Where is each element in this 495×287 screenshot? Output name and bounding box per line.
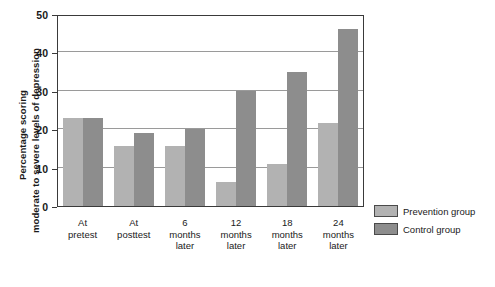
bar-group — [216, 16, 256, 206]
y-tick-label-50: 50 — [36, 10, 48, 21]
gridline-20 — [58, 128, 363, 129]
x-tick-label-line: 24 — [306, 217, 370, 229]
chart-legend: Prevention groupControl group — [374, 203, 475, 239]
bar — [63, 118, 83, 206]
bar — [165, 146, 185, 206]
gridline-30 — [58, 90, 363, 91]
bar — [185, 129, 205, 206]
legend-label: Prevention group — [403, 206, 475, 217]
gridline-40 — [58, 51, 363, 52]
y-tick-label-10: 10 — [36, 164, 48, 175]
y-tick-label-20: 20 — [36, 125, 48, 136]
gridline-10 — [58, 167, 363, 168]
bar — [134, 133, 154, 206]
y-axis-title-line-2: moderate to severe levels of depression — [30, 48, 41, 233]
x-tick-label: 24monthslater — [306, 217, 370, 252]
y-axis-title-line-1: Percentage scoring — [17, 90, 28, 180]
bar — [267, 164, 287, 206]
bar-group — [318, 16, 358, 206]
bar — [83, 118, 103, 206]
bar-group — [267, 16, 307, 206]
plot-area — [57, 15, 364, 207]
y-tick-0 — [52, 207, 57, 208]
y-tick-label-40: 40 — [36, 48, 48, 59]
y-tick-label-30: 30 — [36, 87, 48, 98]
legend-item[interactable]: Control group — [374, 221, 475, 237]
bar — [287, 72, 307, 206]
bar-group — [63, 16, 103, 206]
bar — [236, 91, 256, 206]
bar — [318, 123, 338, 206]
x-tick-label-line: later — [306, 240, 370, 252]
y-axis-title: Percentage scoring moderate to severe le… — [0, 0, 46, 240]
legend-label: Control group — [403, 224, 461, 235]
legend-swatch — [374, 205, 398, 217]
bar-chart-figure: Percentage scoring moderate to severe le… — [0, 0, 495, 287]
bar-group — [165, 16, 205, 206]
legend-swatch — [374, 223, 398, 235]
bar-group — [114, 16, 154, 206]
bar — [338, 29, 358, 206]
x-tick-label-line: months — [306, 229, 370, 241]
bar — [216, 182, 236, 206]
y-tick-label-0: 0 — [42, 202, 48, 213]
bar — [114, 146, 134, 206]
legend-item[interactable]: Prevention group — [374, 203, 475, 219]
